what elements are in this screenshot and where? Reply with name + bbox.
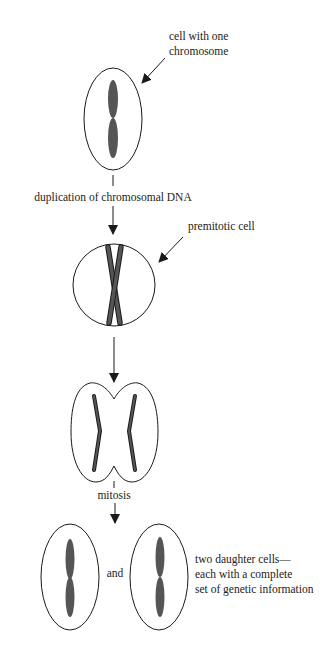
mitosis-diagram: cell with one chromosome duplication of …: [0, 0, 331, 663]
label-daughter-cells-line1: two daughter cells—: [195, 553, 291, 566]
separating-chromosome-left: [94, 396, 100, 470]
label-duplication: duplication of chromosomal DNA: [34, 191, 192, 204]
label-mitosis: mitosis: [97, 489, 131, 501]
dividing-cell: [71, 383, 158, 482]
label-cell-with-one-chromosome-line1: cell with one: [169, 30, 228, 42]
label-and: and: [107, 567, 124, 579]
label-premitotic-cell: premitotic cell: [188, 220, 255, 233]
daughter-chromosome-right: [156, 537, 165, 617]
label-cell-with-one-chromosome-line2: chromosome: [169, 45, 228, 57]
pointer-arrow-initial-cell: [142, 58, 165, 83]
premitotic-cell: [73, 244, 155, 326]
daughter-chromosome-left: [66, 539, 75, 617]
single-chromosome: [108, 80, 118, 158]
label-daughter-cells-line3: set of genetic information: [195, 583, 314, 596]
initial-cell: [84, 68, 142, 170]
daughter-cell-left: [41, 524, 99, 630]
daughter-cell-right: [130, 524, 188, 630]
separating-chromosome-right: [129, 396, 135, 470]
pointer-arrow-premitotic-cell: [159, 237, 183, 262]
dividing-cell-membrane: [71, 383, 158, 482]
label-daughter-cells-line2: each with a complete: [195, 568, 292, 581]
duplicated-chromosome-x: [108, 247, 121, 323]
